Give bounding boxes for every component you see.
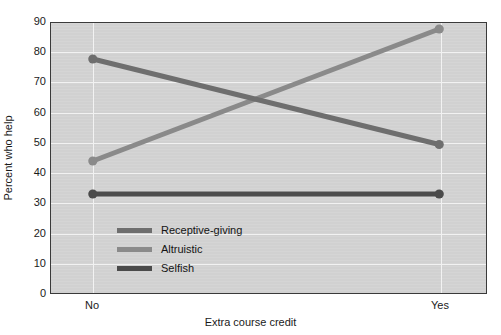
y-axis-tick-70: 70: [6, 76, 46, 87]
legend-swatch-receptive-giving: [117, 228, 152, 233]
legend: Receptive-giving Altruistic Selfish: [117, 224, 242, 274]
legend-item-altruistic: Altruistic: [117, 243, 242, 255]
legend-label-altruistic: Altruistic: [161, 243, 203, 255]
series-receptive-giving: [88, 54, 444, 149]
y-axis-tick-0: 0: [6, 288, 46, 299]
legend-item-receptive-giving: Receptive-giving: [117, 224, 242, 236]
x-axis-label: Extra course credit: [0, 316, 501, 328]
data-point-selfish-no: [88, 189, 97, 198]
series-altruistic: [88, 24, 444, 165]
legend-swatch-altruistic: [117, 247, 152, 252]
plot-area: Receptive-giving Altruistic Selfish: [50, 22, 487, 294]
x-axis-tick-yes: Yes: [431, 299, 449, 311]
y-axis-tick-80: 80: [6, 46, 46, 57]
series-selfish: [88, 189, 444, 198]
data-point-altruistic-no: [88, 156, 97, 165]
legend-label-selfish: Selfish: [161, 262, 194, 274]
line-chart: 90 80 70 60 50 40 30 20 10 0 Percent who…: [0, 0, 501, 335]
y-axis-tick-90: 90: [6, 16, 46, 27]
data-point-selfish-yes: [435, 189, 444, 198]
data-point-receptive-giving-no: [88, 54, 97, 63]
legend-swatch-selfish: [117, 266, 152, 271]
data-point-altruistic-yes: [435, 24, 444, 33]
y-axis-tick-20: 20: [6, 228, 46, 239]
legend-item-selfish: Selfish: [117, 262, 242, 274]
data-point-receptive-giving-yes: [435, 140, 444, 149]
legend-label-receptive-giving: Receptive-giving: [161, 224, 242, 236]
y-axis-label: Percent who help: [2, 116, 14, 201]
y-axis-tick-10: 10: [6, 258, 46, 269]
x-axis-tick-no: No: [85, 299, 99, 311]
